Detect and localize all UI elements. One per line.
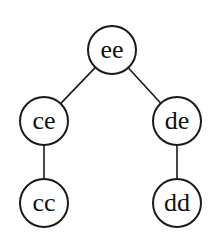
tree-node-dd: dd xyxy=(153,179,201,227)
node-label: cc xyxy=(32,188,55,217)
tree-node-de: de xyxy=(153,97,201,145)
tree-node-ee: ee xyxy=(88,26,136,74)
node-label: ce xyxy=(32,106,55,135)
nodes-group: eecedeccdd xyxy=(20,26,201,227)
tree-node-cc: cc xyxy=(20,179,68,227)
tree-diagram: eecedeccdd xyxy=(0,0,211,240)
edge-ee-ce xyxy=(61,67,96,103)
node-label: de xyxy=(165,106,190,135)
node-label: dd xyxy=(164,188,190,217)
node-label: ee xyxy=(100,35,123,64)
edge-ee-de xyxy=(128,68,161,104)
tree-node-ce: ce xyxy=(20,97,68,145)
